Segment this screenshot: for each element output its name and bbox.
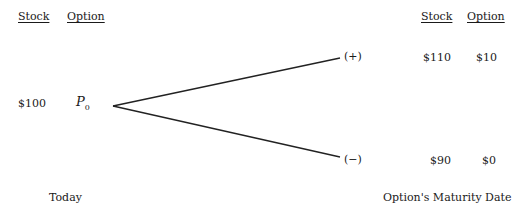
footer-maturity: Option's Maturity Date: [383, 191, 511, 204]
option-symbol: P: [76, 94, 85, 109]
up-state-label: (+): [344, 50, 362, 63]
down-state-label: (−): [344, 153, 362, 166]
today-option-price: P0: [76, 94, 90, 112]
up-branch: [113, 58, 340, 106]
left-header-stock: Stock: [18, 10, 49, 23]
option-subscript: 0: [85, 103, 90, 112]
up-stock-price: $110: [423, 51, 451, 64]
today-stock-price: $100: [18, 97, 46, 110]
right-header-option: Option: [467, 10, 505, 23]
down-option-value: $0: [482, 154, 496, 167]
up-option-value: $10: [476, 51, 497, 64]
down-stock-price: $90: [430, 154, 451, 167]
right-header-stock: Stock: [421, 10, 452, 23]
left-header-option: Option: [67, 10, 105, 23]
footer-today: Today: [49, 191, 82, 204]
down-branch: [113, 106, 340, 157]
